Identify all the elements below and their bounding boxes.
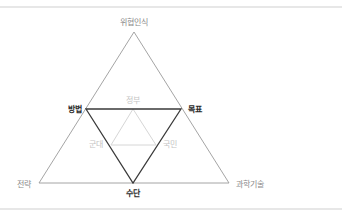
label-means: 수단 — [126, 188, 141, 198]
label-military: 군대 — [89, 140, 103, 149]
label-people: 국민 — [163, 139, 177, 149]
label-goal: 목표 — [188, 105, 203, 114]
triangle-diagram: 위협인식 전략 과학기술 방법 목표 수단 정부 군대 국민 — [0, 0, 352, 217]
label-strategy: 전략 — [17, 179, 32, 189]
label-science-technology: 과학기술 — [236, 179, 264, 189]
inner-triangle — [111, 109, 156, 145]
label-government: 정부 — [126, 95, 140, 105]
label-method: 방법 — [68, 104, 82, 114]
label-threat-perception: 위협인식 — [120, 17, 148, 27]
